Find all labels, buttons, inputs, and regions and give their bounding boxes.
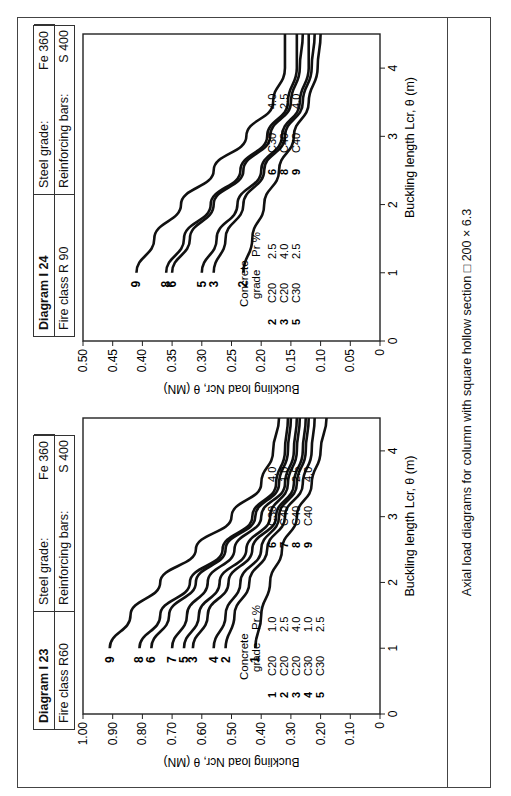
legend-id: 5 (290, 319, 302, 325)
legend-concrete: C30 (290, 283, 302, 303)
curve-label: 8 (159, 280, 173, 287)
legend-pr: 4.0 (278, 244, 290, 259)
legend-concrete: C20 (278, 283, 290, 303)
x-tick-label: 2 (386, 201, 400, 208)
x-tick-label: 3 (386, 133, 400, 140)
x-tick-label: 0 (386, 337, 400, 344)
figure-caption: Axial load diagrams for column with squa… (460, 17, 474, 788)
y-tick-label: 0.40 (135, 349, 149, 373)
document-page: Diagram I 23 Steel grade:Fe 360 Fire cla… (0, 0, 511, 796)
curve-6 (172, 34, 303, 273)
y-tick-label: 0.45 (106, 349, 120, 373)
y-tick-label: 0.20 (254, 349, 268, 373)
y-tick-label: 0.10 (314, 349, 328, 373)
y-tick-label: 0.15 (284, 349, 298, 373)
curve-9 (136, 34, 284, 273)
legend-pr: 2.5 (290, 244, 302, 259)
y-tick-label: 0.35 (165, 349, 179, 373)
legend-concrete: C40 (278, 133, 290, 153)
x-axis-label: Buckling length Lcr, θ (m) (403, 77, 417, 218)
legend-header-concrete: Concrete (238, 260, 250, 307)
plot-frame (83, 34, 380, 341)
caption-band: Axial load diagrams for column with squa… (447, 17, 491, 788)
legend-id: 8 (278, 169, 290, 175)
legend-concrete: C40 (290, 133, 302, 153)
legend-id: 6 (266, 169, 278, 175)
legend-pr: 4.0 (290, 94, 302, 109)
curve-label: 9 (129, 280, 143, 287)
y-tick-label: 0.50 (76, 349, 90, 373)
y-tick-label: 0.25 (225, 349, 239, 373)
legend-pr: 2.5 (266, 244, 278, 259)
legend-id: 2 (266, 319, 278, 325)
y-tick-label: 0.05 (343, 349, 357, 373)
legend-pr: 4.0 (266, 94, 278, 109)
legend-concrete: C20 (266, 283, 278, 303)
y-tick-label: 0 (373, 349, 387, 356)
legend-pr: 2.5 (278, 94, 290, 109)
legend-header-pr: Pr % (250, 232, 262, 257)
curve-label: 5 (195, 280, 209, 287)
y-axis-label: Buckling load Ncr, θ (MN) (163, 382, 299, 396)
legend-concrete: C30 (266, 133, 278, 153)
legend-id: 9 (290, 169, 302, 175)
chart-diagram-i24: 0123400.050.100.150.200.250.300.350.400.… (0, 0, 511, 796)
legend-id: 3 (278, 319, 290, 325)
legend-header-grade: grade (250, 270, 262, 299)
x-tick-label: 4 (386, 64, 400, 71)
x-tick-label: 1 (386, 269, 400, 276)
y-tick-label: 0.30 (195, 349, 209, 373)
